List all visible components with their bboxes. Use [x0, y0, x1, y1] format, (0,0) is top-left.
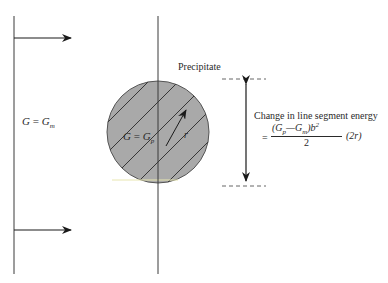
precipitate-label: Precipitate [178, 61, 221, 72]
precipitate-circle [30, 50, 255, 275]
energy-formula: = (Gp—Gm)b2 2 (2r) [262, 122, 382, 152]
precipitate-modulus-label: G = Gp [123, 130, 154, 142]
radius-label: r [184, 129, 188, 140]
energy-title: Change in line segment energy [254, 110, 378, 121]
matrix-modulus-label: G = Gm [22, 115, 55, 127]
